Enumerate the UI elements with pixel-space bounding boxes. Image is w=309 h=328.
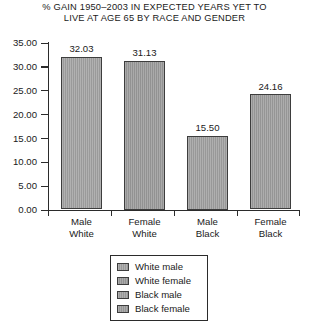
legend-swatch-icon xyxy=(117,263,129,271)
x-category-label-female-black: Female Black xyxy=(235,216,307,239)
x-category-line-1: Female xyxy=(109,216,181,228)
legend-item-black-female[interactable]: Black female xyxy=(117,302,201,316)
y-axis-label: 25.00 xyxy=(0,86,37,96)
legend-label: Black female xyxy=(135,304,190,314)
y-tick-mark xyxy=(41,114,48,115)
legend-label: Black male xyxy=(135,290,182,300)
bar-chart: % GAIN 1950–2003 IN EXPECTED YEARS YET T… xyxy=(0,0,309,328)
y-axis-label: 0.00 xyxy=(0,205,37,215)
bar-value-label: 31.13 xyxy=(115,48,175,58)
legend-swatch-icon xyxy=(117,291,129,299)
y-tick-mark xyxy=(41,162,48,163)
bar-female-white[interactable] xyxy=(124,61,165,210)
legend-swatch-icon xyxy=(117,305,129,313)
chart-legend: White male White female Black male Black… xyxy=(110,255,208,321)
x-category-line-2: Black xyxy=(235,228,307,240)
legend-swatch-icon xyxy=(117,277,129,285)
legend-item-white-male[interactable]: White male xyxy=(117,260,201,274)
legend-label: White male xyxy=(135,262,183,272)
y-tick-mark xyxy=(41,66,48,67)
x-category-label-female-white: Female White xyxy=(109,216,181,239)
y-axis-label: 10.00 xyxy=(0,157,37,167)
y-axis-label: 15.00 xyxy=(0,134,37,144)
bar-value-label: 24.16 xyxy=(241,82,301,92)
y-tick-mark xyxy=(41,138,48,139)
bar-male-black[interactable] xyxy=(187,136,228,210)
x-axis-line xyxy=(41,210,300,211)
x-category-line-2: Black xyxy=(172,228,244,240)
y-axis-line xyxy=(48,42,49,211)
bar-male-white[interactable] xyxy=(61,57,102,210)
legend-item-black-male[interactable]: Black male xyxy=(117,288,201,302)
bar-female-black[interactable] xyxy=(250,94,291,209)
x-category-label-male-black: Male Black xyxy=(172,216,244,239)
chart-title-line-2: LIVE AT AGE 65 BY RACE AND GENDER xyxy=(0,13,309,24)
x-category-line-1: Female xyxy=(235,216,307,228)
y-axis-label: 30.00 xyxy=(0,62,37,72)
x-category-line-2: White xyxy=(109,228,181,240)
legend-item-white-female[interactable]: White female xyxy=(117,274,201,288)
bar-value-label: 15.50 xyxy=(178,123,238,133)
x-category-label-male-white: Male White xyxy=(46,216,118,239)
y-axis-label: 5.00 xyxy=(0,181,37,191)
y-tick-mark xyxy=(41,186,48,187)
bar-value-label: 32.03 xyxy=(52,44,112,54)
legend-label: White female xyxy=(135,276,191,286)
y-tick-mark xyxy=(41,90,48,91)
x-category-line-1: Male xyxy=(46,216,118,228)
x-category-line-1: Male xyxy=(172,216,244,228)
y-tick-mark xyxy=(41,210,48,211)
chart-title: % GAIN 1950–2003 IN EXPECTED YEARS YET T… xyxy=(0,2,309,25)
y-axis-label: 20.00 xyxy=(0,110,37,120)
x-category-line-2: White xyxy=(46,228,118,240)
y-tick-mark xyxy=(41,43,48,44)
chart-title-line-1: % GAIN 1950–2003 IN EXPECTED YEARS YET T… xyxy=(0,2,309,13)
y-axis-label: 35.00 xyxy=(0,38,37,48)
